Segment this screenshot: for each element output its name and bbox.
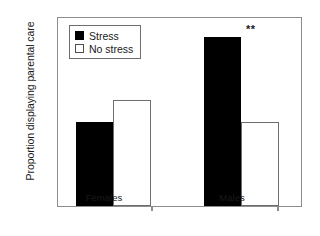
x-category-label-females: Females: [57, 192, 151, 203]
legend-swatch-open-icon: [75, 44, 84, 53]
x-tick-mark: [277, 206, 278, 211]
plot-area: ** Stress No stress: [57, 17, 302, 207]
legend-label-stress: Stress: [89, 30, 119, 42]
bar-females-no-stress: [113, 100, 151, 206]
legend-swatch-filled-icon: [75, 31, 84, 40]
legend-item-no-stress: No stress: [75, 42, 133, 55]
legend: Stress No stress: [69, 25, 141, 59]
legend-label-no-stress: No stress: [89, 43, 133, 55]
y-axis-title: Proportion displaying parental care: [24, 6, 36, 196]
x-category-label-males: Males: [185, 192, 279, 203]
legend-item-stress: Stress: [75, 29, 133, 42]
significance-marker-males-stress: **: [246, 24, 256, 35]
bar-chart-figure: Proportion displaying parental care 0.9 …: [0, 0, 320, 236]
bar-males-stress: [204, 37, 241, 206]
x-tick-mark: [151, 206, 152, 211]
